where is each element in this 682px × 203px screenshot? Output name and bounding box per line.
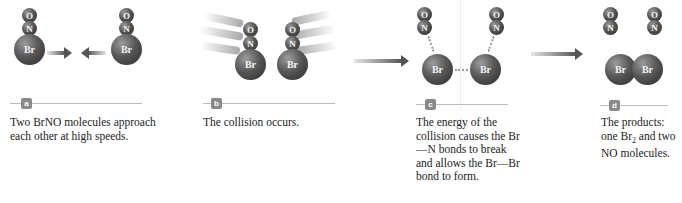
nitrogen-atom: N bbox=[489, 20, 504, 35]
caption-a: Two BrNO molecules approach each other a… bbox=[10, 116, 170, 143]
forming-bond bbox=[455, 69, 468, 71]
bromine-atom: Br bbox=[632, 54, 663, 85]
caption-c: The energy of the collision causes the B… bbox=[416, 116, 521, 184]
step-badge-b: b bbox=[211, 98, 222, 109]
arrow-right-icon bbox=[531, 52, 576, 56]
label-line bbox=[203, 103, 335, 104]
oxygen-atom: O bbox=[243, 22, 258, 37]
motion-streak-icon bbox=[200, 41, 241, 54]
bromine-atom: Br bbox=[277, 49, 308, 80]
oxygen-atom: O bbox=[285, 22, 300, 37]
step-badge-d: d bbox=[609, 100, 620, 111]
arrow-right-icon bbox=[47, 51, 65, 55]
bromine-atom: Br bbox=[111, 34, 142, 65]
divider bbox=[460, 0, 461, 110]
nitrogen-atom: N bbox=[647, 20, 662, 35]
bromine-atom: Br bbox=[422, 54, 453, 85]
motion-streak-icon bbox=[198, 25, 244, 41]
bromine-atom: Br bbox=[14, 34, 45, 65]
step-badge-a: a bbox=[21, 98, 32, 109]
breaking-bond bbox=[487, 36, 494, 52]
caption-b: The collision occurs. bbox=[203, 116, 363, 130]
bromine-atom: Br bbox=[470, 54, 501, 85]
breaking-bond bbox=[427, 36, 434, 52]
caption-d: The products: one Br2 and two NO molecul… bbox=[601, 116, 681, 161]
nitrogen-atom: N bbox=[603, 20, 618, 35]
arrow-right-icon bbox=[354, 59, 402, 63]
arrow-left-icon bbox=[88, 51, 106, 55]
step-badge-c: c bbox=[425, 99, 436, 110]
nitrogen-atom: N bbox=[417, 20, 432, 35]
motion-streak-icon bbox=[203, 12, 244, 28]
bromine-atom: Br bbox=[235, 49, 266, 80]
